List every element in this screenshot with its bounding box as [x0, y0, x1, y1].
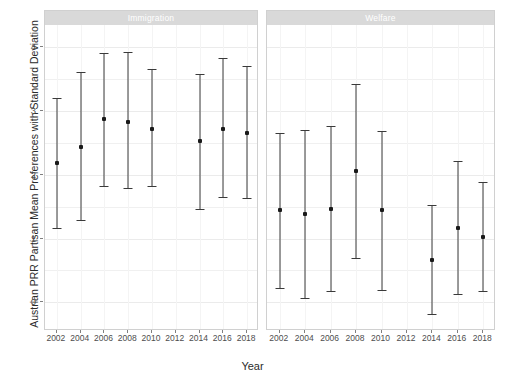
data-point: [481, 235, 485, 239]
error-bar-cap-upper: [52, 98, 61, 99]
x-tick-mark: [56, 330, 57, 333]
data-point: [354, 169, 358, 173]
error-bar-cap-lower: [301, 298, 310, 299]
grid-line-horizontal: [45, 239, 257, 240]
x-tick-mark: [199, 330, 200, 333]
grid-line-horizontal: [45, 302, 257, 303]
error-bar-cap-lower: [124, 188, 133, 189]
x-tick-label: 2012: [396, 333, 415, 343]
x-axis-title: Year: [0, 360, 505, 372]
data-point: [278, 208, 282, 212]
error-bar-cap-upper: [352, 84, 361, 85]
error-bar-cap-upper: [243, 66, 252, 67]
x-tick-label: 2016: [213, 333, 232, 343]
facet-strip-welfare: Welfare: [267, 11, 494, 25]
x-tick-mark: [406, 330, 407, 333]
error-bar-cap-lower: [52, 228, 61, 229]
grid-line-vertical: [176, 25, 177, 329]
x-tick-mark: [482, 330, 483, 333]
error-bar-cap-upper: [428, 205, 437, 206]
error-bar-cap-lower: [453, 294, 462, 295]
data-point: [55, 161, 59, 165]
error-bar-cap-upper: [148, 69, 157, 70]
data-point: [430, 258, 434, 262]
x-tick-label: 2006: [94, 333, 113, 343]
error-bar-cap-lower: [326, 291, 335, 292]
error-bar-cap-upper: [453, 161, 462, 162]
x-tick-mark: [457, 330, 458, 333]
error-bar-cap-lower: [148, 186, 157, 187]
facet-strip-immigration: Immigration: [45, 11, 257, 25]
x-tick-mark: [330, 330, 331, 333]
y-tick-mark: [40, 238, 43, 239]
x-tick-label: 2014: [422, 333, 441, 343]
error-bar-cap-upper: [100, 53, 109, 54]
x-tick-mark: [279, 330, 280, 333]
error-bar-cap-lower: [219, 197, 228, 198]
x-tick-label: 2010: [371, 333, 390, 343]
x-tick-label: 2004: [70, 333, 89, 343]
plot-area-immigration: [45, 25, 257, 329]
x-tick-label: 2002: [46, 333, 65, 343]
grid-line-horizontal: [45, 47, 257, 48]
y-tick-label: 3: [14, 105, 36, 116]
x-tick-mark: [222, 330, 223, 333]
data-point: [380, 208, 384, 212]
x-tick-label: 2006: [320, 333, 339, 343]
error-bar-cap-lower: [195, 209, 204, 210]
x-tick-label: 2016: [447, 333, 466, 343]
data-point: [329, 207, 333, 211]
data-point: [102, 117, 106, 121]
grid-line-horizontal-minor: [267, 79, 494, 80]
error-bar-cap-lower: [275, 288, 284, 289]
data-point: [126, 120, 130, 124]
error-bar-cap-upper: [479, 182, 488, 183]
y-tick-mark: [40, 174, 43, 175]
x-tick-mark: [127, 330, 128, 333]
y-tick-mark: [40, 46, 43, 47]
x-tick-label: 2012: [165, 333, 184, 343]
error-bar-cap-upper: [377, 131, 386, 132]
x-tick-mark: [151, 330, 152, 333]
x-tick-mark: [355, 330, 356, 333]
x-tick-mark: [304, 330, 305, 333]
x-tick-mark: [103, 330, 104, 333]
x-tick-label: 2014: [189, 333, 208, 343]
error-bar-cap-lower: [76, 220, 85, 221]
y-tick-label: 2: [14, 168, 36, 179]
grid-line-horizontal-minor: [45, 270, 257, 271]
error-bar-cap-lower: [100, 186, 109, 187]
grid-line-horizontal: [267, 111, 494, 112]
x-tick-label: 2010: [142, 333, 161, 343]
y-tick-label: 0: [14, 296, 36, 307]
x-tick-label: 2004: [295, 333, 314, 343]
y-tick-mark: [40, 301, 43, 302]
data-point: [456, 226, 460, 230]
data-point: [303, 212, 307, 216]
chart-root: Austrian PRR Partisan Mean Preferences w…: [0, 0, 505, 382]
error-bar-cap-lower: [479, 291, 488, 292]
x-tick-label: 2008: [118, 333, 137, 343]
error-bar-cap-upper: [195, 74, 204, 75]
error-bar-cap-lower: [243, 198, 252, 199]
x-tick-label: 2018: [473, 333, 492, 343]
grid-line-horizontal: [267, 47, 494, 48]
error-bar-cap-upper: [326, 126, 335, 127]
y-tick-mark: [40, 110, 43, 111]
x-tick-label: 2002: [269, 333, 288, 343]
data-point: [79, 145, 83, 149]
facet-panel-immigration: Immigration: [44, 10, 258, 330]
x-tick-mark: [381, 330, 382, 333]
data-point: [245, 131, 249, 135]
y-tick-label: 4: [14, 41, 36, 52]
error-bar-cap-upper: [301, 130, 310, 131]
error-bar-cap-upper: [124, 52, 133, 53]
data-point: [198, 139, 202, 143]
grid-line-horizontal-minor: [45, 207, 257, 208]
grid-line-vertical: [407, 25, 408, 329]
x-tick-mark: [175, 330, 176, 333]
x-tick-label: 2018: [237, 333, 256, 343]
grid-line-horizontal: [267, 302, 494, 303]
error-bar-cap-lower: [428, 314, 437, 315]
data-point: [221, 127, 225, 131]
